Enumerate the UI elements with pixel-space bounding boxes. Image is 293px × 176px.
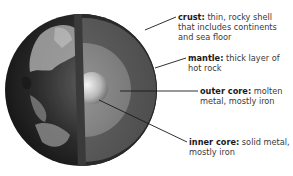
mantle-desc-1: thick layer of xyxy=(223,53,279,63)
crust-term: crust: xyxy=(178,12,205,22)
mantle-leader-line xyxy=(155,58,186,68)
outer-core-label: outer core: molten metal, mostly iron xyxy=(200,86,282,106)
crust-desc-1: thin, rocky shell xyxy=(205,12,272,22)
mantle-label: mantle: thick layer of hot rock xyxy=(188,53,280,73)
mantle-desc-2: hot rock xyxy=(188,63,221,73)
inner-core-desc-1: solid metal, xyxy=(239,137,289,147)
mantle-term: mantle: xyxy=(188,53,223,63)
crust-desc-2: that includes continents xyxy=(178,22,277,32)
crust-leader-line xyxy=(145,17,176,30)
inner-core-desc-2: mostly iron xyxy=(189,147,235,157)
crust-label: crust: thin, rocky shell that includes c… xyxy=(178,12,277,42)
outer-core-desc-2: metal, mostly iron xyxy=(200,96,275,106)
inner-core-label: inner core: solid metal, mostly iron xyxy=(189,137,290,157)
outer-core-term: outer core: xyxy=(200,86,251,96)
crust-desc-3: and sea floor xyxy=(178,32,231,42)
outer-core-desc-1: molten xyxy=(251,86,282,96)
inner-core-term: inner core: xyxy=(189,137,239,147)
